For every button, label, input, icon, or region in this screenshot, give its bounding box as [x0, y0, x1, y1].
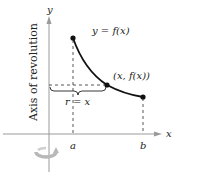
radius-brace — [50, 87, 106, 95]
curve-start-point — [70, 35, 75, 40]
b-label: b — [140, 140, 146, 151]
x-axis — [3, 132, 162, 137]
y-axis-label: y — [46, 4, 53, 15]
y-axis — [47, 16, 52, 172]
function-label: y = f(x) — [91, 25, 130, 36]
a-label: a — [70, 140, 76, 151]
x-axis-label: x — [166, 128, 172, 139]
axis-of-revolution-label: Axis of revolution — [27, 23, 40, 122]
revolution-diagram: x y Axis of revolution y = f(x) (x, f(x)… — [0, 0, 201, 174]
point-label: (x, f(x)) — [113, 70, 150, 81]
curve-end-point — [140, 94, 145, 99]
curve-mid-point — [104, 82, 109, 87]
rotation-arrow-icon — [36, 147, 59, 157]
function-curve — [73, 38, 143, 97]
radius-label: r = x — [65, 96, 91, 107]
